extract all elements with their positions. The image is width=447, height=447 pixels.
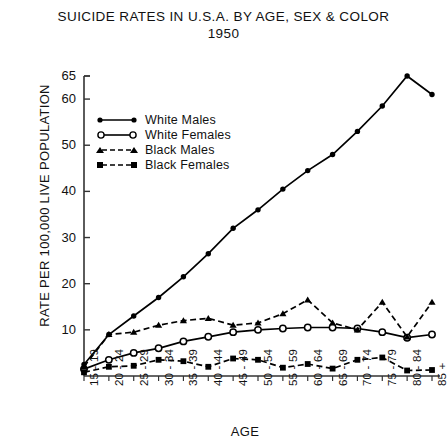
x-tick-label: 15 - 19 [89,349,101,386]
y-tick-label: 20 [48,277,76,290]
data-point [205,315,212,321]
data-point [279,310,286,316]
data-point [330,152,335,157]
data-point [355,357,361,363]
x-tick-label: 20 - 24 [114,349,126,386]
x-tick-label: 65 - 69 [338,349,350,386]
data-point [156,295,161,300]
data-point [429,367,435,373]
data-point [230,356,236,362]
data-point [404,368,410,374]
data-point [280,186,285,191]
x-tick-label: 60 - 64 [313,349,325,386]
data-point [106,357,112,363]
data-point [255,327,261,333]
x-tick-label: 75 - 79 [387,349,399,386]
data-point [404,73,409,78]
data-point [155,322,162,328]
data-point [305,168,310,173]
data-point [429,331,435,337]
data-point [379,299,386,305]
data-point [304,296,311,302]
data-point [181,358,187,364]
data-point [255,357,261,363]
x-tick-label: 80 - 84 [412,349,424,386]
y-tick-label: 50 [48,138,76,151]
data-point [155,345,161,351]
y-tick-label: 65 [48,69,76,82]
data-point [106,364,112,370]
data-point [205,334,211,340]
x-tick-label: 45 - 49 [238,349,250,386]
x-tick-label: 70 - 74 [362,349,374,386]
data-point [330,366,336,372]
data-point [156,357,162,363]
y-tick-label: 10 [48,323,76,336]
data-point [428,299,435,305]
data-point [305,361,311,367]
chart-figure: SUICIDE RATES IN U.S.A. BY AGE, SEX & CO… [0,0,447,447]
data-point [205,364,211,370]
data-point [180,338,186,344]
x-tick-label: 40 - 44 [213,349,225,386]
x-tick-label: 25 - 29 [139,349,151,386]
data-point [81,369,87,375]
data-point [380,103,385,108]
data-point [181,274,186,279]
y-tick-label: 40 [48,184,76,197]
x-tick-label: 55 - 59 [288,349,300,386]
x-tick-label: 35 - 39 [188,349,200,386]
data-point [379,329,385,335]
data-point [255,207,260,212]
data-point [131,350,137,356]
x-tick-label: 85 + [437,362,447,386]
x-tick-label: 30 - 34 [164,349,176,386]
data-point [379,355,385,361]
data-point [355,129,360,134]
data-point [131,363,137,369]
y-tick-label: 30 [48,231,76,244]
data-point [206,251,211,256]
data-point [280,365,286,371]
data-point [230,329,236,335]
data-point [280,325,286,331]
y-tick-label: 60 [48,92,76,105]
data-point [429,92,434,97]
data-point [305,324,311,330]
x-tick-label: 50 - 54 [263,349,275,386]
data-point [230,226,235,231]
data-point [131,313,136,318]
